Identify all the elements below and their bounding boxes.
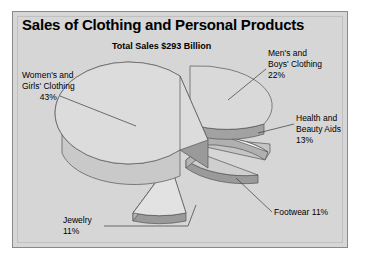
- label-health-line2: Beauty Aids: [296, 124, 341, 135]
- label-jewelry-value: 11%: [63, 226, 92, 237]
- pie-slice-womens-girls: [55, 62, 208, 185]
- label-mens-line2: Boys' Clothing: [268, 59, 322, 70]
- chart-screenshot: Sales of Clothing and Personal Products …: [0, 0, 366, 262]
- label-womens-line2: Girls' Clothing: [22, 81, 75, 92]
- label-health-value: 13%: [296, 135, 341, 146]
- label-jewelry-line1: Jewelry: [63, 215, 92, 226]
- label-mens-boys-clothing: Men's and Boys' Clothing 22%: [268, 48, 322, 81]
- label-mens-line1: Men's and: [268, 48, 322, 59]
- label-footwear-line1: Footwear 11%: [274, 207, 328, 218]
- label-womens-girls-clothing: Women's and Girls' Clothing 43%: [22, 70, 75, 103]
- label-womens-line1: Women's and: [22, 70, 75, 81]
- label-health-line1: Health and: [296, 113, 341, 124]
- label-footwear: Footwear 11%: [274, 207, 328, 218]
- label-jewelry: Jewelry 11%: [63, 215, 92, 237]
- label-womens-value: 43%: [22, 92, 75, 103]
- leader-line-jewelry-2: [188, 205, 196, 226]
- label-mens-value: 22%: [268, 70, 322, 81]
- label-health-beauty-aids: Health and Beauty Aids 13%: [296, 113, 341, 146]
